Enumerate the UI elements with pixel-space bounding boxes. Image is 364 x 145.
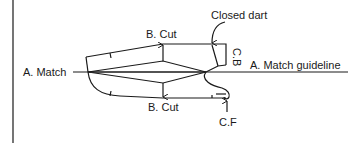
- center-back-edge: [206, 65, 226, 72]
- closed-dart-callout: [212, 22, 225, 43]
- match-guideline-label: A. Match guideline: [250, 60, 341, 71]
- cut-bottom-label: B. Cut: [148, 102, 179, 113]
- left-edge: [86, 57, 88, 72]
- notch-top-left: [110, 53, 111, 58]
- bottom-outline: [88, 72, 226, 98]
- closed-dart-label: Closed dart: [211, 10, 267, 21]
- closed-dart-line: [212, 45, 218, 66]
- pattern-diagram: A. Match B. Cut B. Cut Closed dart C.B A…: [0, 0, 364, 145]
- center-front-label: C.F: [219, 117, 237, 128]
- center-front-curve: [204, 72, 229, 99]
- center-back-label: C.B: [231, 48, 242, 66]
- cut-top-label: B. Cut: [146, 29, 177, 40]
- match-left-label: A. Match: [23, 67, 66, 78]
